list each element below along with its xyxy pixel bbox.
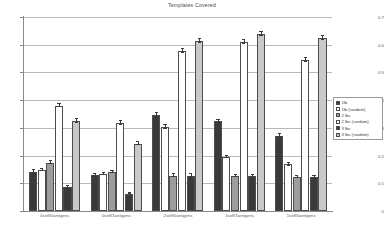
bar[interactable] — [310, 177, 318, 211]
chart-title: Templates Covered — [0, 2, 384, 8]
legend-item-label: 2 lbs — [342, 113, 351, 118]
legend-item-label: 1lb (random) — [342, 107, 366, 112]
x-axis-line — [23, 211, 333, 212]
bar[interactable] — [178, 51, 186, 211]
error-bar-cap — [189, 173, 192, 174]
error-bar-cap — [110, 170, 113, 171]
bar[interactable] — [72, 121, 80, 211]
error-bar-cap — [57, 103, 60, 104]
legend-item-label: 1lb — [342, 100, 348, 105]
y-axis-tick-label: 0.1 — [366, 181, 384, 186]
bar[interactable] — [161, 127, 169, 211]
error-bar-cap — [304, 61, 307, 62]
error-bar-cap — [102, 174, 105, 175]
error-bar-cap — [136, 144, 139, 145]
bar[interactable] — [91, 175, 99, 211]
bar[interactable] — [284, 164, 292, 211]
legend-swatch-icon — [336, 126, 340, 130]
bar[interactable] — [152, 115, 160, 211]
bar-group — [214, 17, 266, 211]
error-bar-cap — [259, 31, 262, 32]
error-bar-cap — [128, 193, 131, 194]
legend-item-label: 2 lbs (random) — [342, 119, 369, 124]
y-axis-tick-label: 0.5 — [366, 70, 384, 75]
error-bar-cap — [66, 185, 69, 186]
error-bar-cap — [93, 175, 96, 176]
bar[interactable] — [38, 170, 46, 211]
error-bar-cap — [234, 176, 237, 177]
bar[interactable] — [240, 42, 248, 211]
bar[interactable] — [187, 176, 195, 211]
bar-group — [275, 17, 327, 211]
bar[interactable] — [63, 187, 71, 211]
error-bar-cap — [278, 136, 281, 137]
error-bar-cap — [93, 173, 96, 174]
bar[interactable] — [301, 60, 309, 211]
x-axis-tick-label: 1self/0antigens — [270, 213, 332, 218]
bar[interactable] — [134, 144, 142, 211]
error-bar-cap — [321, 39, 324, 40]
legend-swatch-icon — [336, 120, 340, 124]
bar[interactable] — [46, 163, 54, 212]
x-axis-tick-label: 0self/1antigens — [86, 213, 148, 218]
error-bar-cap — [40, 170, 43, 171]
bar[interactable] — [116, 123, 124, 211]
legend-item-label: 3 lbs — [342, 126, 351, 131]
error-bar-cap — [225, 155, 228, 156]
bar-group — [91, 17, 143, 211]
bar[interactable] — [257, 34, 265, 211]
legend-swatch-icon — [336, 107, 340, 111]
error-bar-cap — [234, 174, 237, 175]
error-bar-cap — [110, 172, 113, 173]
bar[interactable] — [108, 172, 116, 211]
legend-swatch-icon — [336, 101, 340, 105]
error-bar-cap — [163, 128, 166, 129]
error-bar-cap — [181, 48, 184, 49]
legend-swatch-icon — [336, 113, 340, 117]
error-bar-cap — [155, 116, 158, 117]
error-bar-cap — [75, 122, 78, 123]
error-bar-cap — [102, 172, 105, 173]
bar[interactable] — [275, 136, 283, 211]
error-bar-cap — [225, 157, 228, 158]
bar[interactable] — [29, 172, 37, 211]
bar[interactable] — [214, 121, 222, 211]
error-bar-cap — [198, 42, 201, 43]
x-axis-tick-label: 0self/0antigens — [24, 213, 86, 218]
y-axis-tick-label: 0.2 — [366, 153, 384, 158]
error-bar-cap — [163, 124, 166, 125]
error-bar-cap — [40, 168, 43, 169]
error-bar-cap — [57, 106, 60, 107]
error-bar-cap — [181, 52, 184, 53]
error-bar-cap — [295, 177, 298, 178]
error-bar-cap — [198, 38, 201, 39]
bar[interactable] — [195, 41, 203, 211]
chart-container: Templates Covered 00.10.20.30.40.50.60.7… — [0, 0, 384, 231]
error-bar-cap — [287, 162, 290, 163]
bar[interactable] — [169, 176, 177, 211]
bar[interactable] — [222, 157, 230, 211]
error-bar-cap — [251, 174, 254, 175]
bar[interactable] — [231, 176, 239, 211]
bar[interactable] — [248, 176, 256, 211]
error-bar-cap — [49, 160, 52, 161]
error-bar-cap — [312, 175, 315, 176]
error-bar-cap — [304, 57, 307, 58]
bar[interactable] — [125, 194, 133, 211]
error-bar-cap — [172, 176, 175, 177]
legend-swatch-icon — [336, 133, 340, 137]
y-axis-tick-label: 0.7 — [366, 15, 384, 20]
bar[interactable] — [99, 174, 107, 211]
error-bar-cap — [259, 35, 262, 36]
error-bar-cap — [287, 165, 290, 166]
y-axis-tick-label: 0.6 — [366, 42, 384, 47]
bar[interactable] — [293, 177, 301, 211]
chart-legend: 1lb1lb (random)2 lbs2 lbs (random)3 lbs3… — [333, 97, 383, 140]
bar[interactable] — [55, 106, 63, 211]
error-bar-cap — [189, 176, 192, 177]
legend-item[interactable]: 3 lbs (random) — [336, 131, 380, 137]
bar[interactable] — [318, 38, 326, 211]
error-bar-cap — [251, 176, 254, 177]
error-bar-cap — [312, 177, 315, 178]
error-bar-cap — [242, 39, 245, 40]
